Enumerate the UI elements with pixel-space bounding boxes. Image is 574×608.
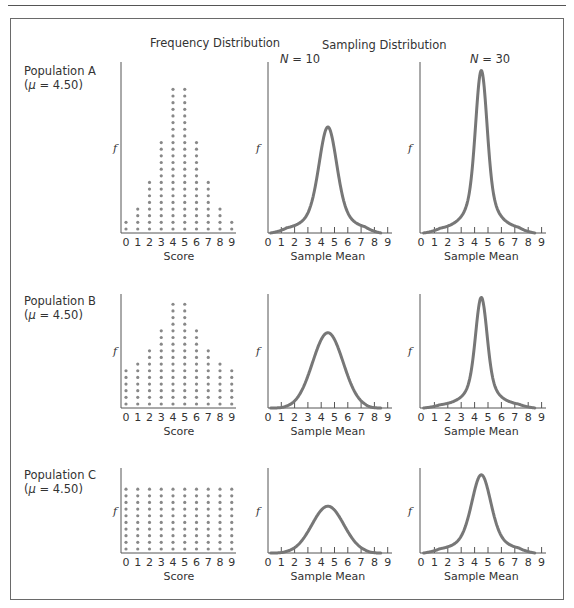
x-tick-label: 0	[123, 556, 130, 569]
y-axis-label: f	[112, 345, 119, 358]
data-dot	[124, 547, 127, 550]
data-dot	[171, 114, 174, 117]
data-dot	[148, 541, 151, 544]
data-dot	[171, 108, 174, 111]
x-tick-label: 7	[511, 556, 518, 569]
data-dot	[148, 488, 151, 491]
data-dot	[171, 221, 174, 224]
data-dot	[207, 194, 210, 197]
chart-b-n30: f0123456789Sample Mean	[407, 294, 546, 438]
data-dot	[171, 527, 174, 530]
data-dot	[183, 148, 186, 151]
data-dot	[171, 227, 174, 230]
data-dot	[183, 108, 186, 111]
data-dot	[160, 181, 163, 184]
x-tick-label: 2	[444, 556, 451, 569]
data-dot	[195, 181, 198, 184]
x-tick-label: 9	[384, 236, 391, 249]
data-dot	[230, 514, 233, 517]
x-tick-label: 8	[217, 411, 224, 424]
data-dot	[171, 168, 174, 171]
data-dot	[195, 188, 198, 191]
data-dot	[195, 369, 198, 372]
data-dot	[207, 389, 210, 392]
data-dot	[207, 402, 210, 405]
data-dot	[207, 488, 210, 491]
data-dot	[160, 402, 163, 405]
x-tick-label: 4	[318, 411, 325, 424]
data-dot	[207, 188, 210, 191]
x-tick-label: 5	[181, 556, 188, 569]
data-dot	[136, 488, 139, 491]
data-dot	[195, 396, 198, 399]
x-tick-label: 8	[525, 411, 532, 424]
x-axis-label: Sample Mean	[290, 250, 365, 263]
data-dot	[148, 508, 151, 511]
data-dot	[183, 88, 186, 91]
data-dot	[136, 396, 139, 399]
x-tick-label: 4	[318, 236, 325, 249]
data-dot	[160, 541, 163, 544]
data-dot	[183, 508, 186, 511]
x-tick-label: 1	[134, 236, 141, 249]
data-dot	[195, 494, 198, 497]
data-dot	[195, 376, 198, 379]
data-dot	[218, 541, 221, 544]
data-dot	[148, 349, 151, 352]
data-dot	[136, 547, 139, 550]
data-dot	[183, 227, 186, 230]
data-dot	[136, 221, 139, 224]
data-dot	[124, 396, 127, 399]
x-tick-label: 0	[418, 236, 425, 249]
x-tick-label: 5	[331, 411, 338, 424]
data-dot	[160, 349, 163, 352]
x-tick-label: 9	[538, 556, 545, 569]
x-tick-label: 3	[158, 556, 165, 569]
distribution-curve	[424, 71, 535, 233]
x-tick-label: 4	[471, 236, 478, 249]
data-dot	[183, 521, 186, 524]
data-dot	[207, 201, 210, 204]
data-dot	[171, 214, 174, 217]
data-dot	[148, 534, 151, 537]
data-dot	[195, 547, 198, 550]
data-dot	[207, 534, 210, 537]
data-dot	[195, 343, 198, 346]
data-dot	[183, 329, 186, 332]
x-tick-label: 6	[344, 411, 351, 424]
data-dot	[124, 494, 127, 497]
data-dot	[148, 207, 151, 210]
data-dot	[171, 101, 174, 104]
data-dot	[195, 221, 198, 224]
y-axis-label: f	[407, 505, 414, 518]
data-dot	[183, 389, 186, 392]
data-dot	[195, 356, 198, 359]
data-dot	[230, 541, 233, 544]
x-tick-label: 5	[181, 411, 188, 424]
distribution-curve	[424, 475, 535, 553]
data-dot	[160, 547, 163, 550]
x-tick-label: 8	[371, 236, 378, 249]
x-tick-label: 1	[134, 411, 141, 424]
data-dot	[148, 382, 151, 385]
chart-a-frequency: f0123456789Score	[112, 62, 236, 263]
data-dot	[183, 488, 186, 491]
data-dot	[183, 323, 186, 326]
x-tick-label: 4	[170, 236, 177, 249]
data-dot	[124, 514, 127, 517]
data-dot	[171, 514, 174, 517]
data-dot	[195, 488, 198, 491]
data-dot	[171, 356, 174, 359]
data-dot	[183, 369, 186, 372]
data-dot	[160, 488, 163, 491]
data-dot	[183, 214, 186, 217]
data-dot	[171, 508, 174, 511]
x-tick-label: 0	[418, 556, 425, 569]
data-dot	[171, 161, 174, 164]
x-tick-label: 6	[193, 411, 200, 424]
data-dot	[160, 214, 163, 217]
data-dot	[195, 214, 198, 217]
data-dot	[207, 221, 210, 224]
data-dot	[183, 128, 186, 131]
data-dot	[195, 363, 198, 366]
